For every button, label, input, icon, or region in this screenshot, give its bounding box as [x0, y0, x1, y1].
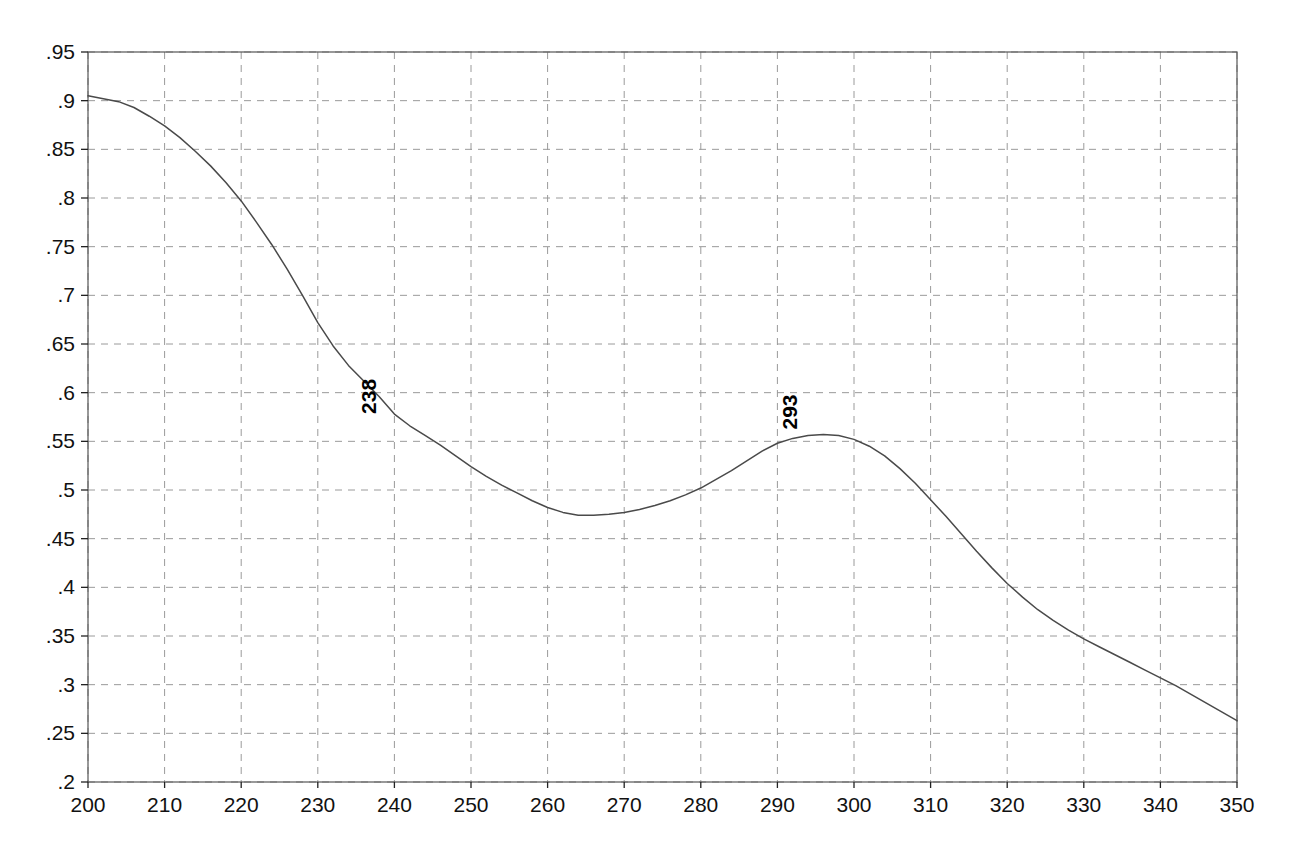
x-axis-tick-label: 320 [990, 793, 1025, 816]
y-axis-tick-label: .9 [57, 89, 75, 112]
y-axis-tick-label: .65 [46, 332, 75, 355]
y-axis-tick-label: .6 [57, 381, 75, 404]
x-axis-tick-label: 240 [377, 793, 412, 816]
peak-label: 238 [357, 379, 380, 414]
y-axis-tick-label: .35 [46, 624, 75, 647]
peak-label: 293 [778, 394, 801, 429]
y-axis-tick-label: .3 [57, 673, 75, 696]
y-axis-tick-label: .4 [57, 575, 75, 598]
x-axis-tick-label: 210 [147, 793, 182, 816]
x-axis-tick-label: 250 [453, 793, 488, 816]
spectrum-chart: .2.25.3.35.4.45.5.55.6.65.7.75.8.85.9.95… [0, 0, 1307, 848]
y-axis-tick-label: .5 [57, 478, 75, 501]
y-axis-tick-label: .45 [46, 527, 75, 550]
x-axis-tick-label: 270 [607, 793, 642, 816]
x-axis-tick-label: 300 [836, 793, 871, 816]
y-axis-tick-label: .55 [46, 429, 75, 452]
chart-background [0, 0, 1307, 848]
y-axis-tick-label: .8 [57, 186, 75, 209]
chart-page: .2.25.3.35.4.45.5.55.6.65.7.75.8.85.9.95… [0, 0, 1307, 848]
x-axis-tick-label: 310 [913, 793, 948, 816]
x-axis-tick-label: 350 [1219, 793, 1254, 816]
x-axis-tick-label: 280 [683, 793, 718, 816]
x-axis-tick-label: 220 [224, 793, 259, 816]
y-axis-tick-label: .7 [57, 283, 75, 306]
x-axis-tick-label: 230 [300, 793, 335, 816]
x-axis-tick-label: 200 [70, 793, 105, 816]
chart-canvas: .2.25.3.35.4.45.5.55.6.65.7.75.8.85.9.95… [0, 0, 1307, 848]
x-axis-tick-label: 290 [760, 793, 795, 816]
x-axis-tick-label: 340 [1143, 793, 1178, 816]
y-axis-tick-label: .2 [57, 770, 75, 793]
y-axis-tick-label: .25 [46, 721, 75, 744]
y-axis-tick-label: .95 [46, 40, 75, 63]
y-axis-tick-label: .75 [46, 235, 75, 258]
x-axis-tick-label: 330 [1066, 793, 1101, 816]
y-axis-tick-label: .85 [46, 137, 75, 160]
x-axis-tick-label: 260 [530, 793, 565, 816]
